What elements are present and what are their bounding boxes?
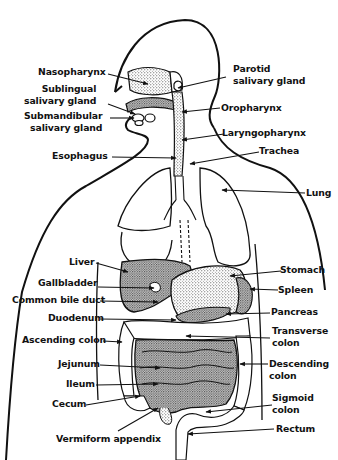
label-duodenum: Duodenum <box>48 312 104 324</box>
label-ileum: Ileum <box>66 378 95 390</box>
label-vermiform-appendix: Vermiform appendix <box>56 433 161 445</box>
label-laryngopharynx: Laryngopharynx <box>222 127 306 139</box>
label-oropharynx: Oropharynx <box>221 102 282 114</box>
label-common-bile-duct: Common bile duct <box>12 294 105 306</box>
label-submandibular-salivary-gland: Submandibular salivary gland <box>24 110 102 133</box>
label-trachea: Trachea <box>259 145 299 157</box>
spleen <box>236 278 252 314</box>
label-sigmoid-colon: Sigmoid colon <box>272 392 314 415</box>
trachea-esophagus <box>164 176 196 262</box>
label-sublingual-salivary-gland: Sublingual salivary gland <box>24 83 96 106</box>
label-ascending-colon: Ascending colon <box>22 334 106 346</box>
label-pancreas: Pancreas <box>271 306 318 318</box>
small-intestine <box>135 339 237 413</box>
label-cecum: Cecum <box>52 398 86 410</box>
label-liver: Liver <box>69 256 95 268</box>
head-organs <box>126 68 184 177</box>
label-parotid-salivary-gland: Parotid salivary gland <box>233 63 305 86</box>
digestive-system-diagram: Nasopharynx Sublingual salivary gland Su… <box>0 0 338 460</box>
label-esophagus: Esophagus <box>52 150 108 162</box>
label-lung: Lung <box>306 187 331 199</box>
label-jejunum: Jejunum <box>58 358 100 370</box>
label-descending-colon: Descending colon <box>269 358 329 381</box>
label-stomach: Stomach <box>280 264 325 276</box>
label-gallbladder: Gallbladder <box>38 277 98 289</box>
label-transverse-colon: Transverse colon <box>272 325 328 348</box>
label-rectum: Rectum <box>276 423 315 435</box>
label-spleen: Spleen <box>278 284 313 296</box>
gallbladder <box>150 282 160 292</box>
label-nasopharynx: Nasopharynx <box>38 66 106 78</box>
